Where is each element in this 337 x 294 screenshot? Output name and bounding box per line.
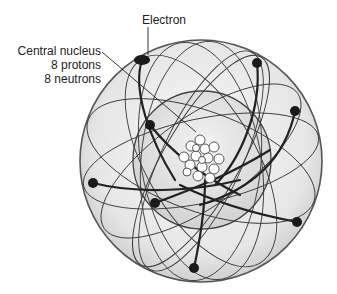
electron — [292, 217, 302, 227]
electron — [252, 58, 262, 68]
electron — [150, 198, 160, 208]
electron — [290, 106, 300, 116]
electron — [189, 263, 199, 273]
electron — [88, 178, 98, 188]
electron — [145, 120, 155, 130]
electron — [134, 55, 150, 65]
atom-diagram — [0, 0, 337, 294]
